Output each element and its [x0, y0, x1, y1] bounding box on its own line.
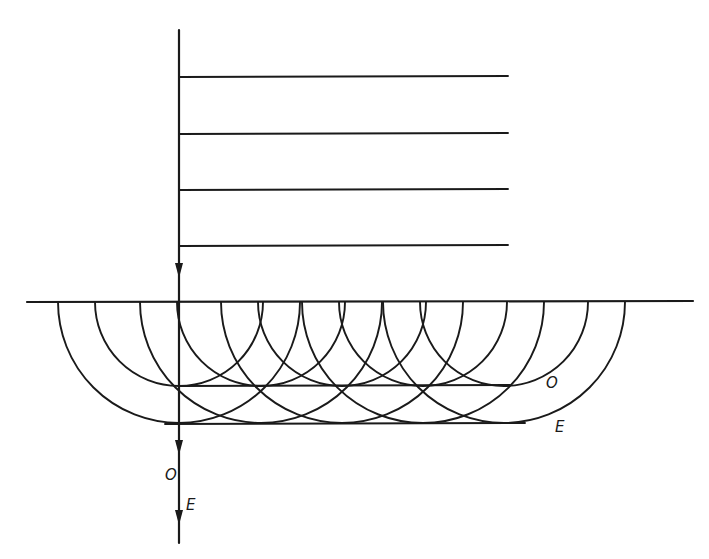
- incident-wavefront-line: [180, 76, 508, 77]
- arrowhead-icon: [175, 440, 183, 455]
- crystal-surface-line: [27, 301, 693, 302]
- extraordinary-envelope-label: E: [555, 418, 565, 436]
- arrowhead-icon: [175, 263, 183, 278]
- ordinary-wavelet-arc: [339, 302, 507, 386]
- huygens-wavelets: [58, 302, 625, 423]
- huygens-birefringence-diagram: O E O E: [0, 0, 709, 559]
- incident-wavefront-line: [180, 245, 508, 246]
- ordinary-wavelet-arc: [177, 302, 345, 386]
- extraordinary-ray-label: E: [186, 496, 196, 514]
- incident-wavefronts: [180, 76, 508, 246]
- ordinary-wavelet-arc: [258, 302, 426, 386]
- ordinary-envelope-label: O: [546, 374, 558, 392]
- extraordinary-wavelet-arc: [302, 302, 544, 423]
- ordinary-ray-label: O: [165, 466, 177, 484]
- ordinary-wavefront-envelope: [179, 385, 510, 386]
- extraordinary-wavelet-arc: [221, 302, 463, 423]
- extraordinary-wavefront-envelope: [165, 423, 525, 424]
- extraordinary-wavelet-arc: [383, 302, 625, 423]
- arrowhead-icon: [175, 510, 183, 525]
- incident-wavefront-line: [180, 133, 508, 134]
- incident-wavefront-line: [180, 189, 508, 190]
- ordinary-wavelet-arc: [420, 302, 588, 386]
